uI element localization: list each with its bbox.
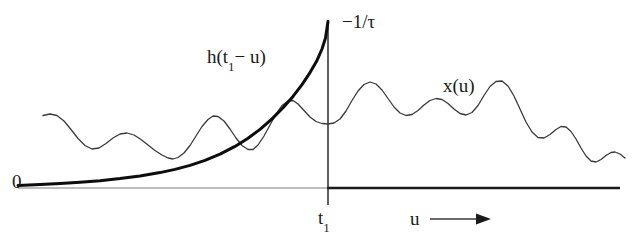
origin-label: 0 xyxy=(12,172,22,191)
impulse-response-label-subscript: 1 xyxy=(228,59,234,74)
impulse-response-label-head: h(t xyxy=(207,46,228,67)
u-axis-arrow-icon xyxy=(430,214,491,225)
signal-label: x(u) xyxy=(443,76,475,95)
impulse-response-label-tail: − u) xyxy=(235,46,266,67)
signal-xu-curve xyxy=(43,81,625,162)
u-axis-label: u xyxy=(410,209,420,228)
t1-label: t1 xyxy=(318,208,330,232)
impulse-response-curve xyxy=(18,22,328,186)
peak-value-label: −1/τ xyxy=(342,12,375,31)
impulse-response-label: h(t1− u) xyxy=(207,47,266,71)
t1-label-subscript: 1 xyxy=(323,220,329,235)
figure-canvas: 0 h(t1− u) −1/τ x(u) t1 u xyxy=(0,0,635,244)
